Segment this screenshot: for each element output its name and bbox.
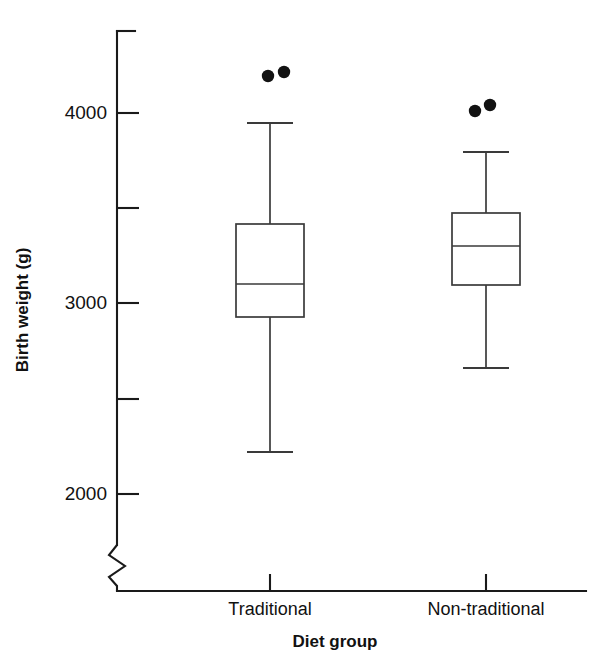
y-axis-break-icon: [109, 545, 125, 591]
box-rect-non-traditional: [452, 213, 520, 285]
boxplot-svg: 4000 3000 2000 Birth weight (g) Traditio…: [0, 0, 594, 664]
y-tick-label-3000: 3000: [65, 292, 107, 313]
box-traditional: [236, 66, 304, 452]
outlier-point: [469, 105, 481, 117]
x-tick-label-traditional: Traditional: [228, 599, 311, 619]
outlier-point: [484, 99, 496, 111]
y-tick-label-2000: 2000: [65, 483, 107, 504]
y-axis-title: Birth weight (g): [13, 248, 32, 373]
box-rect-traditional: [236, 224, 304, 317]
x-axis: Traditional Non-traditional Diet group: [117, 574, 586, 651]
y-axis: 4000 3000 2000 Birth weight (g): [13, 31, 139, 591]
y-tick-label-4000: 4000: [65, 102, 107, 123]
x-tick-label-non-traditional: Non-traditional: [427, 599, 544, 619]
boxplot-figure: 4000 3000 2000 Birth weight (g) Traditio…: [0, 0, 594, 664]
outlier-point: [278, 66, 290, 78]
box-non-traditional: [452, 99, 520, 368]
x-axis-title: Diet group: [293, 632, 378, 651]
outlier-point: [262, 70, 274, 82]
